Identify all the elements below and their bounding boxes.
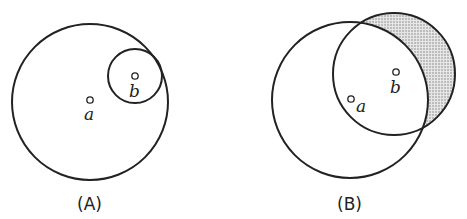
point-a [87,97,93,103]
panel-a: a b (A) [12,24,168,214]
label-a: a [356,96,366,116]
point-b [393,69,399,75]
label-a: a [84,104,94,124]
label-b: b [129,81,140,101]
point-a [348,96,354,102]
diagram-canvas: a b (A) a b (B) [0,0,467,219]
point-b [132,73,138,79]
panel-b: a b (B) [272,10,460,214]
label-b: b [390,77,401,97]
caption-a: (A) [77,194,102,214]
caption-b: (B) [337,194,362,214]
